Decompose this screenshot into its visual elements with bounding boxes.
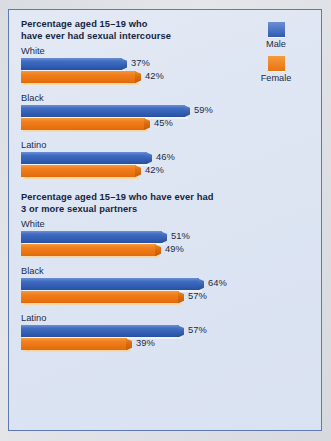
bar-row-female: 49% bbox=[21, 244, 311, 257]
bar-male-white bbox=[21, 58, 127, 70]
bar-shadow bbox=[23, 130, 148, 132]
bar-body bbox=[21, 325, 179, 337]
bar-end-cap bbox=[198, 278, 204, 290]
bars: 37%42% bbox=[21, 58, 311, 84]
bar-body bbox=[21, 58, 122, 70]
bar-end-cap bbox=[126, 338, 132, 350]
bar-body bbox=[21, 244, 156, 256]
bar-shadow bbox=[23, 177, 139, 179]
group-label: Black bbox=[21, 265, 311, 277]
bar-body bbox=[21, 118, 145, 130]
bar-body bbox=[21, 71, 136, 83]
bar-group-white: White51%49% bbox=[21, 218, 311, 257]
bar-row-male: 64% bbox=[21, 278, 311, 291]
chart-title: Percentage aged 15–19 who have ever had … bbox=[21, 19, 207, 42]
bar-male-latino bbox=[21, 325, 184, 337]
figure-inner: Male Female Percentage aged 15–19 who ha… bbox=[9, 10, 321, 430]
bar-female-white bbox=[21, 71, 141, 83]
bar-row-male: 37% bbox=[21, 58, 311, 71]
bar-body bbox=[21, 338, 127, 350]
bars: 57%39% bbox=[21, 325, 311, 351]
bar-end-cap bbox=[135, 71, 141, 83]
bar-end-cap bbox=[155, 244, 161, 256]
bar-row-male: 46% bbox=[21, 152, 311, 165]
bar-value-label: 42% bbox=[145, 164, 164, 175]
chart-three-or-more-partners: Percentage aged 15–19 who have ever had … bbox=[21, 192, 311, 356]
figure-page: Male Female Percentage aged 15–19 who ha… bbox=[0, 0, 331, 441]
bar-value-label: 42% bbox=[145, 70, 164, 81]
bar-row-male: 57% bbox=[21, 325, 311, 338]
bar-value-label: 37% bbox=[131, 57, 150, 68]
bar-end-cap bbox=[161, 231, 167, 243]
bar-body bbox=[21, 105, 185, 117]
chart1-groups: White37%42%Black59%45%Latino46%42% bbox=[21, 45, 311, 183]
bar-group-latino: Latino57%39% bbox=[21, 312, 311, 351]
chart2-groups: White51%49%Black64%57%Latino57%39% bbox=[21, 218, 311, 356]
bar-female-black bbox=[21, 291, 184, 303]
bar-group-latino: Latino46%42% bbox=[21, 139, 311, 178]
bar-group-black: Black59%45% bbox=[21, 92, 311, 131]
group-label: Black bbox=[21, 92, 311, 104]
bar-end-cap bbox=[146, 152, 152, 164]
bar-value-label: 64% bbox=[208, 277, 227, 288]
bar-female-white bbox=[21, 244, 161, 256]
bar-row-female: 57% bbox=[21, 291, 311, 304]
bar-end-cap bbox=[178, 325, 184, 337]
bar-end-cap bbox=[184, 105, 190, 117]
bar-end-cap bbox=[144, 118, 150, 130]
bar-male-white bbox=[21, 231, 167, 243]
bar-body bbox=[21, 165, 136, 177]
bar-body bbox=[21, 291, 179, 303]
bar-male-black bbox=[21, 105, 190, 117]
bar-value-label: 46% bbox=[156, 151, 175, 162]
group-label: Latino bbox=[21, 312, 311, 324]
legend-label-male: Male bbox=[243, 39, 309, 50]
bar-end-cap bbox=[121, 58, 127, 70]
legend-swatch-male bbox=[268, 22, 285, 37]
bar-female-latino bbox=[21, 165, 141, 177]
bar-value-label: 57% bbox=[188, 290, 207, 301]
bar-value-label: 49% bbox=[165, 243, 184, 254]
bar-value-label: 51% bbox=[171, 230, 190, 241]
group-label: Latino bbox=[21, 139, 311, 151]
bar-body bbox=[21, 231, 162, 243]
bar-body bbox=[21, 152, 147, 164]
bar-body bbox=[21, 278, 199, 290]
bar-shadow bbox=[23, 303, 182, 305]
bars: 59%45% bbox=[21, 105, 311, 131]
bar-shadow bbox=[23, 350, 130, 352]
chart-title: Percentage aged 15–19 who have ever had … bbox=[21, 192, 247, 215]
bar-end-cap bbox=[135, 165, 141, 177]
bar-end-cap bbox=[178, 291, 184, 303]
bar-shadow bbox=[23, 83, 139, 85]
bar-male-black bbox=[21, 278, 204, 290]
bar-shadow bbox=[23, 256, 159, 258]
bars: 64%57% bbox=[21, 278, 311, 304]
bar-male-latino bbox=[21, 152, 152, 164]
bar-value-label: 45% bbox=[154, 117, 173, 128]
bar-row-female: 45% bbox=[21, 118, 311, 131]
bar-row-female: 42% bbox=[21, 71, 311, 84]
bar-value-label: 57% bbox=[188, 324, 207, 335]
bars: 51%49% bbox=[21, 231, 311, 257]
bar-female-latino bbox=[21, 338, 132, 350]
bar-value-label: 59% bbox=[194, 104, 213, 115]
bar-row-female: 39% bbox=[21, 338, 311, 351]
bar-row-female: 42% bbox=[21, 165, 311, 178]
group-label: White bbox=[21, 218, 311, 230]
bars: 46%42% bbox=[21, 152, 311, 178]
bar-group-black: Black64%57% bbox=[21, 265, 311, 304]
figure-frame: Male Female Percentage aged 15–19 who ha… bbox=[8, 9, 322, 431]
bar-value-label: 39% bbox=[136, 337, 155, 348]
legend-item-male: Male bbox=[243, 22, 309, 50]
bar-female-black bbox=[21, 118, 150, 130]
